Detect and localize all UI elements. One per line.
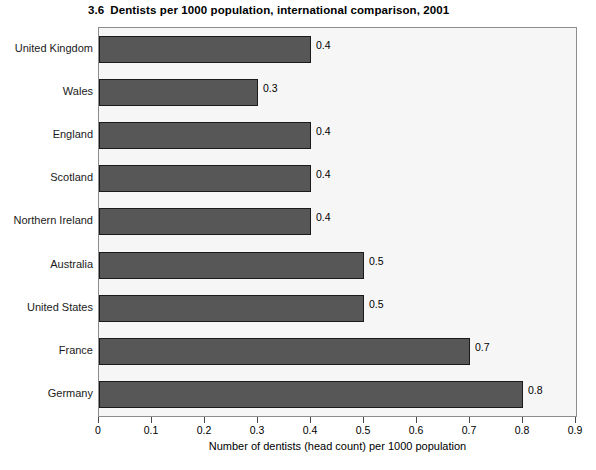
x-tick-mark [469, 417, 470, 423]
bar-value-label: 0.4 [316, 39, 331, 51]
bar-value-label: 0.8 [528, 384, 543, 396]
bar-slot: 0.5 [99, 287, 576, 330]
x-tick-mark [416, 417, 417, 423]
bar-slot: 0.3 [99, 71, 576, 114]
bar [99, 338, 470, 365]
category-label: Scotland [0, 171, 93, 184]
x-tick-label: 0.1 [144, 424, 159, 436]
x-tick-mark [98, 417, 99, 423]
bar [99, 252, 364, 279]
bar-slot: 0.5 [99, 244, 576, 287]
bar-value-label: 0.4 [316, 168, 331, 180]
x-tick-mark [204, 417, 205, 423]
x-axis-title: Number of dentists (head count) per 1000… [98, 440, 577, 452]
category-label: Wales [0, 85, 93, 98]
bar-value-label: 0.3 [263, 82, 278, 94]
bar-value-label: 0.7 [475, 341, 490, 353]
x-tick-label: 0.2 [197, 424, 212, 436]
x-tick-label: 0 [95, 424, 101, 436]
bars-layer: 0.40.30.40.40.40.50.50.70.8 [99, 28, 576, 416]
bar [99, 79, 258, 106]
x-tick-label: 0.3 [250, 424, 265, 436]
x-tick-mark [257, 417, 258, 423]
bar [99, 295, 364, 322]
category-label: Northern Ireland [0, 214, 93, 227]
category-label: France [0, 344, 93, 357]
bar-slot: 0.4 [99, 157, 576, 200]
bar [99, 165, 311, 192]
chart-figure: 3.6Dentists per 1000 population, interna… [0, 0, 596, 470]
x-tick-mark [151, 417, 152, 423]
x-tick-label: 0.4 [303, 424, 318, 436]
bar [99, 381, 523, 408]
bar-slot: 0.4 [99, 114, 576, 157]
bar [99, 208, 311, 235]
bar-slot: 0.8 [99, 373, 576, 416]
x-tick-label: 0.6 [409, 424, 424, 436]
x-tick-mark [363, 417, 364, 423]
bar-slot: 0.4 [99, 200, 576, 243]
category-label: United Kingdom [0, 42, 93, 55]
category-label: Germany [0, 387, 93, 400]
x-tick-label: 0.5 [356, 424, 371, 436]
category-axis-labels: United KingdomWalesEnglandScotlandNorthe… [0, 27, 93, 417]
x-tick-mark [310, 417, 311, 423]
category-label: United States [0, 301, 93, 314]
bar-value-label: 0.5 [369, 298, 384, 310]
category-label: England [0, 128, 93, 141]
x-tick-mark [575, 417, 576, 423]
bar-value-label: 0.4 [316, 125, 331, 137]
bar-slot: 0.7 [99, 330, 576, 373]
x-tick-label: 0.9 [568, 424, 583, 436]
plot-area: 0.40.30.40.40.40.50.50.70.8 [98, 27, 577, 417]
bar [99, 122, 311, 149]
x-tick-label: 0.7 [462, 424, 477, 436]
chart-title-number: 3.6 [88, 4, 104, 16]
bar [99, 36, 311, 63]
chart-title: 3.6Dentists per 1000 population, interna… [88, 4, 449, 16]
bar-slot: 0.4 [99, 28, 576, 71]
chart-title-text: Dentists per 1000 population, internatio… [110, 4, 449, 16]
bar-value-label: 0.4 [316, 211, 331, 223]
x-tick-mark [522, 417, 523, 423]
category-label: Australia [0, 258, 93, 271]
x-tick-label: 0.8 [515, 424, 530, 436]
bar-value-label: 0.5 [369, 255, 384, 267]
